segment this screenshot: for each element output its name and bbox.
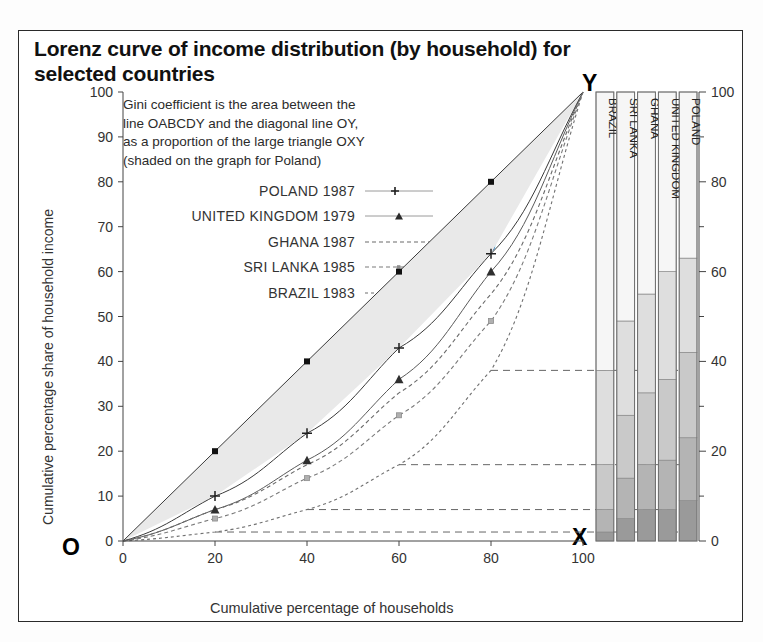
diagonal-marker-20	[212, 448, 218, 454]
y-tick-label-0: 0	[105, 533, 113, 549]
bar-tick-label-0: 0	[711, 533, 719, 549]
bar-segment-ghana-q2[interactable]	[638, 465, 656, 510]
x-tick-label-100: 100	[571, 550, 595, 566]
bar-tick-label-100: 100	[711, 84, 735, 100]
chart-canvas: 0102030405060708090100020406080100BRAZIL…	[18, 30, 743, 622]
bar-tick-label-40: 40	[711, 353, 727, 369]
bar-segment-brazil-q1[interactable]	[596, 532, 614, 541]
x-tick-label-60: 60	[391, 550, 407, 566]
bar-segment-poland-q3[interactable]	[679, 352, 697, 437]
bar-segment-united-kingdom-q3[interactable]	[658, 379, 676, 460]
bar-segment-sri-lanka-q3[interactable]	[617, 415, 635, 478]
bar-segment-brazil-q3[interactable]	[596, 465, 614, 510]
uk-marker-20	[211, 505, 220, 514]
srilanka-marker-20	[213, 516, 218, 521]
y-tick-label-100: 100	[90, 84, 114, 100]
bar-segment-ghana-q4[interactable]	[638, 294, 656, 393]
bar-segment-poland-q4[interactable]	[679, 258, 697, 352]
bar-segment-brazil-q4[interactable]	[596, 370, 614, 464]
bar-tick-label-80: 80	[711, 174, 727, 190]
srilanka-marker-60	[397, 413, 402, 418]
bar-segment-brazil-q2[interactable]	[596, 510, 614, 532]
x-tick-label-40: 40	[299, 550, 315, 566]
bar-segment-poland-q2[interactable]	[679, 438, 697, 501]
bar-segment-united-kingdom-q1[interactable]	[658, 510, 676, 541]
bar-tick-label-60: 60	[711, 264, 727, 280]
bar-segment-united-kingdom-q2[interactable]	[658, 460, 676, 509]
x-tick-label-0: 0	[119, 550, 127, 566]
bar-segment-ghana-q3[interactable]	[638, 393, 656, 465]
bar-segment-sri-lanka-q2[interactable]	[617, 478, 635, 518]
uk-marker-40	[303, 456, 312, 465]
srilanka-marker-80	[489, 318, 494, 323]
diagonal-marker-80	[488, 179, 494, 185]
y-tick-label-60: 60	[97, 264, 113, 280]
bar-segment-united-kingdom-q4[interactable]	[658, 272, 676, 380]
x-tick-label-20: 20	[207, 550, 223, 566]
diagonal-marker-40	[304, 358, 310, 364]
y-tick-label-20: 20	[97, 443, 113, 459]
bar-segment-ghana-q1[interactable]	[638, 510, 656, 541]
y-tick-label-40: 40	[97, 353, 113, 369]
y-tick-label-90: 90	[97, 129, 113, 145]
srilanka-marker-40	[305, 476, 310, 481]
y-tick-label-80: 80	[97, 174, 113, 190]
y-tick-label-10: 10	[97, 488, 113, 504]
y-tick-label-50: 50	[97, 309, 113, 325]
x-tick-label-80: 80	[483, 550, 499, 566]
bar-tick-label-20: 20	[711, 443, 727, 459]
uk-marker-60	[395, 375, 404, 384]
bar-segment-sri-lanka-q4[interactable]	[617, 321, 635, 415]
diagonal-marker-60	[396, 269, 402, 275]
y-tick-label-70: 70	[97, 219, 113, 235]
diagonal-equality-line	[123, 92, 583, 541]
figure-page: Lorenz curve of income distribution (by …	[0, 0, 763, 642]
bar-segment-poland-q1[interactable]	[679, 501, 697, 541]
bar-segment-sri-lanka-q1[interactable]	[617, 519, 635, 541]
y-tick-label-30: 30	[97, 398, 113, 414]
bar-label-poland: POLAND	[690, 98, 702, 145]
